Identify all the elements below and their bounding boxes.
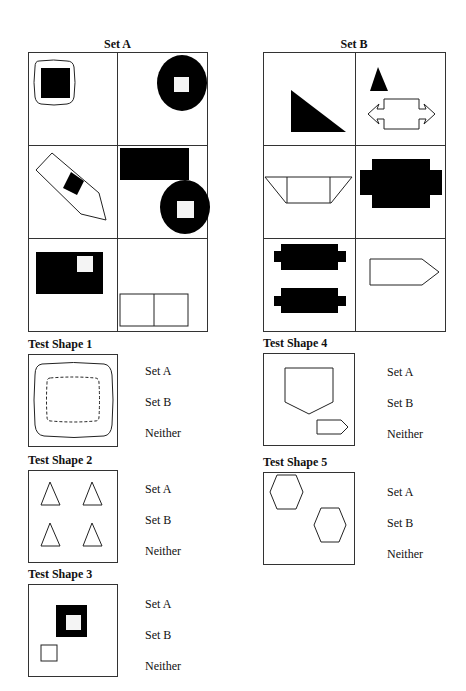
test-1-option-set-b[interactable]: Set B <box>145 395 171 410</box>
test-3-option-neither[interactable]: Neither <box>145 659 181 674</box>
black-rectangle-with-square-icon <box>29 238 117 331</box>
black-stepped-cross-icon <box>355 145 445 238</box>
set-b-cell-5 <box>264 238 355 331</box>
set-a-cell-5 <box>29 238 117 331</box>
test-2-option-set-b[interactable]: Set B <box>145 513 171 528</box>
set-a-cell-4 <box>117 145 207 238</box>
test-2-option-neither[interactable]: Neither <box>145 544 181 559</box>
set-b-grid <box>263 52 446 332</box>
test-4-option-set-a[interactable]: Set A <box>387 365 413 380</box>
pentagon-and-arrow-icon <box>264 354 356 447</box>
pentagon-arrow-icon <box>355 238 445 331</box>
set-a-cell-2 <box>117 53 207 145</box>
two-black-stepped-bars-icon <box>264 238 355 331</box>
test-1-option-set-a[interactable]: Set A <box>145 364 171 379</box>
test-4-option-neither[interactable]: Neither <box>387 427 423 442</box>
set-a-title: Set A <box>28 37 207 52</box>
black-rectangle-and-circle-icon <box>117 145 207 238</box>
test-shape-4-box <box>263 353 355 446</box>
set-a-cell-1 <box>29 53 117 145</box>
four-triangles-icon <box>29 471 119 564</box>
test-shape-5-box <box>263 472 355 565</box>
set-a-cell-6 <box>117 238 207 331</box>
test-3-option-set-a[interactable]: Set A <box>145 597 171 612</box>
set-b-cell-6 <box>355 238 445 331</box>
set-a-cell-3 <box>29 145 117 238</box>
test-4-option-set-b[interactable]: Set B <box>387 396 413 411</box>
black-circle-with-square-icon <box>117 53 207 145</box>
test-1-option-neither[interactable]: Neither <box>145 426 181 441</box>
test-5-option-set-b[interactable]: Set B <box>387 516 413 531</box>
test-shape-1-box <box>28 354 118 447</box>
black-square-and-small-square-icon <box>29 585 119 678</box>
triangle-and-double-arrow-icon <box>355 53 445 145</box>
test-shape-5-label: Test Shape 5 <box>263 455 327 470</box>
nested-rounded-squares-icon <box>29 355 119 448</box>
test-shape-3-label: Test Shape 3 <box>28 567 92 582</box>
set-b-title: Set B <box>263 37 445 52</box>
black-right-triangle-icon <box>264 53 355 145</box>
set-b-cell-4 <box>355 145 445 238</box>
test-shape-2-label: Test Shape 2 <box>28 453 92 468</box>
set-b-cell-3 <box>264 145 355 238</box>
set-b-cell-1 <box>264 53 355 145</box>
test-2-option-set-a[interactable]: Set A <box>145 482 171 497</box>
test-5-option-neither[interactable]: Neither <box>387 547 423 562</box>
test-shape-4-label: Test Shape 4 <box>263 336 327 351</box>
test-shape-2-box <box>28 470 118 563</box>
test-5-option-set-a[interactable]: Set A <box>387 485 413 500</box>
rounded-square-with-black-square-icon <box>29 53 117 145</box>
two-squares-icon <box>117 238 207 331</box>
trapezoid-icon <box>264 145 355 238</box>
test-shape-1-label: Test Shape 1 <box>28 337 92 352</box>
test-shape-3-box <box>28 584 118 677</box>
set-a-grid <box>28 52 208 332</box>
two-hexagons-icon <box>264 473 356 566</box>
tilted-pentagon-with-diamond-icon <box>29 145 117 238</box>
set-b-cell-2 <box>355 53 445 145</box>
test-3-option-set-b[interactable]: Set B <box>145 628 171 643</box>
